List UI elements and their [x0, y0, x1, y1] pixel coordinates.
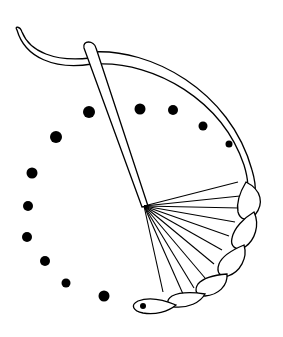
- stitch-hole-dot: [62, 279, 71, 288]
- stitch-hole-dot: [199, 122, 208, 131]
- dots-ring: [22, 104, 233, 302]
- stitch-hole-dot: [23, 201, 33, 211]
- thread-end-dot: [140, 303, 146, 309]
- twisted-rope: [133, 182, 260, 314]
- stitch-hole-dot: [40, 256, 50, 266]
- fan-thread-line: [144, 206, 239, 208]
- stitch-hole-dot: [226, 141, 233, 148]
- fan-thread-line: [144, 196, 240, 206]
- fan-thread-line: [144, 206, 194, 288]
- stitch-hole-dot: [83, 106, 95, 118]
- thread-tail: [16, 27, 92, 65]
- stitch-hole-dot: [22, 232, 32, 242]
- stitch-hole-dot: [135, 104, 146, 115]
- stitch-hole-dot: [168, 105, 178, 115]
- fan-thread-line: [144, 182, 238, 206]
- fan-thread-line: [144, 206, 183, 294]
- stitch-diagram: [0, 0, 283, 337]
- stitch-hole-dot: [27, 168, 38, 179]
- stitch-hole-dot: [99, 291, 110, 302]
- stitch-hole-dot: [50, 131, 62, 143]
